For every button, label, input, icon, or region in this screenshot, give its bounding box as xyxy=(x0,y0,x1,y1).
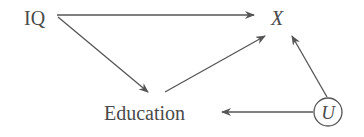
node-x: X xyxy=(270,7,284,29)
causal-diagram: IQ X Education U xyxy=(0,0,364,137)
node-u: U xyxy=(321,102,336,123)
edge-iq-to-education xyxy=(58,17,148,92)
edge-u-to-x xyxy=(292,36,327,97)
node-education: Education xyxy=(104,102,185,124)
node-iq: IQ xyxy=(24,7,46,29)
edge-education-to-x xyxy=(165,36,265,92)
